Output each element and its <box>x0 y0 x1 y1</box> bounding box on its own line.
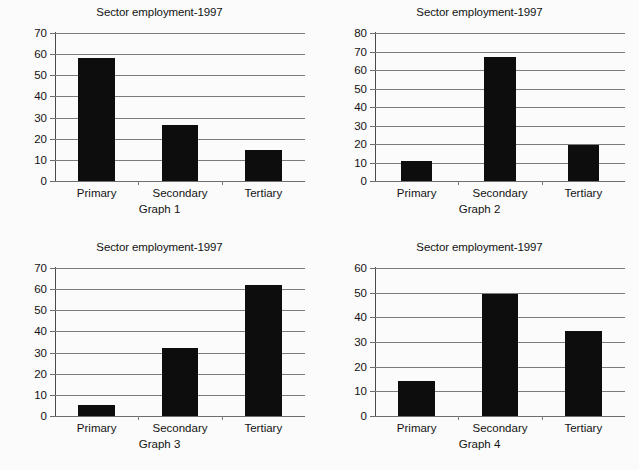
y-axis-tick <box>50 289 55 290</box>
chart-title: Sector employment-1997 <box>12 241 307 253</box>
bar <box>78 58 115 181</box>
x-axis-category-label: Tertiary <box>244 422 282 434</box>
y-axis-tick <box>370 163 375 164</box>
bar <box>245 150 282 181</box>
gridline <box>375 52 625 53</box>
y-axis-tick-label: 10 <box>34 389 47 401</box>
chart-title: Sector employment-1997 <box>320 6 639 18</box>
y-axis-tick-label: 10 <box>354 157 367 169</box>
y-axis-tick-label: 10 <box>34 154 47 166</box>
bar <box>568 145 600 181</box>
y-axis-tick-label: 30 <box>34 112 47 124</box>
bar <box>78 405 115 416</box>
gridline <box>55 33 305 34</box>
y-axis-tick-label: 50 <box>354 287 367 299</box>
bar <box>484 57 516 181</box>
x-axis-tick <box>138 181 139 185</box>
x-axis-baseline <box>370 181 625 182</box>
chart-panel-graph-1: Sector employment-1997 010203040506070Pr… <box>0 0 319 235</box>
x-axis-tick <box>542 181 543 185</box>
chart-caption: Graph 3 <box>12 438 307 450</box>
chart-caption: Graph 2 <box>320 203 639 215</box>
x-axis-category-label: Primary <box>77 422 117 434</box>
y-axis-tick <box>50 54 55 55</box>
y-axis-tick <box>50 96 55 97</box>
chart-caption: Graph 4 <box>320 438 639 450</box>
y-axis-tick-label: 70 <box>34 262 47 274</box>
y-axis-tick-label: 50 <box>34 69 47 81</box>
gridline <box>375 33 625 34</box>
y-axis-tick <box>370 391 375 392</box>
chart-panel-graph-4: Sector employment-1997 0102030405060Prim… <box>320 235 639 470</box>
plot-area: 010203040506070PrimarySecondaryTertiary <box>55 33 305 181</box>
chart-panel-graph-3: Sector employment-1997 010203040506070Pr… <box>0 235 319 470</box>
y-axis-tick-label: 60 <box>34 48 47 60</box>
x-axis-tick <box>222 416 223 420</box>
bar <box>162 348 199 416</box>
y-axis-tick <box>370 70 375 71</box>
x-axis-category-label: Tertiary <box>564 187 602 199</box>
y-axis-tick-label: 40 <box>354 311 367 323</box>
y-axis-tick <box>370 416 375 417</box>
y-axis-tick <box>370 181 375 182</box>
y-axis-tick-label: 0 <box>361 175 367 187</box>
bar <box>482 294 519 416</box>
y-axis-tick <box>370 342 375 343</box>
bar <box>401 161 433 181</box>
x-axis-tick <box>138 416 139 420</box>
gridline <box>375 268 625 269</box>
chart-caption: Graph 1 <box>12 203 307 215</box>
y-axis-tick <box>50 181 55 182</box>
x-axis-category-label: Secondary <box>153 422 208 434</box>
y-axis-tick <box>370 33 375 34</box>
x-axis-baseline <box>370 416 625 417</box>
x-axis-tick <box>458 416 459 420</box>
y-axis-tick <box>50 416 55 417</box>
y-axis-tick <box>50 33 55 34</box>
plot-area: 0102030405060PrimarySecondaryTertiary <box>375 268 625 416</box>
y-axis-tick-label: 0 <box>361 410 367 422</box>
y-axis-tick-label: 70 <box>354 46 367 58</box>
y-axis-tick-label: 20 <box>34 133 47 145</box>
bar <box>565 331 602 416</box>
plot-area: 01020304050607080PrimarySecondaryTertiar… <box>375 33 625 181</box>
y-axis-tick-label: 60 <box>354 64 367 76</box>
y-axis-tick-label: 20 <box>34 368 47 380</box>
chart-panel-graph-2: Sector employment-1997 01020304050607080… <box>320 0 639 235</box>
bar <box>162 125 199 181</box>
y-axis-tick-label: 20 <box>354 361 367 373</box>
y-axis-tick <box>370 126 375 127</box>
y-axis-tick-label: 60 <box>34 283 47 295</box>
y-axis-tick-label: 50 <box>34 304 47 316</box>
x-axis-category-label: Tertiary <box>564 422 602 434</box>
x-axis-tick <box>222 181 223 185</box>
x-axis-category-label: Primary <box>397 187 437 199</box>
y-axis-tick <box>370 89 375 90</box>
y-axis-tick <box>50 353 55 354</box>
y-axis-tick <box>370 317 375 318</box>
x-axis-category-label: Tertiary <box>244 187 282 199</box>
y-axis-tick <box>50 268 55 269</box>
y-axis-tick-label: 20 <box>354 138 367 150</box>
x-axis-category-label: Secondary <box>473 187 528 199</box>
y-axis-tick-label: 0 <box>41 175 47 187</box>
y-axis-tick <box>370 367 375 368</box>
x-axis-category-label: Secondary <box>473 422 528 434</box>
x-axis-baseline <box>50 416 305 417</box>
y-axis-tick-label: 30 <box>34 347 47 359</box>
chart-title: Sector employment-1997 <box>320 241 639 253</box>
y-axis-tick-label: 0 <box>41 410 47 422</box>
y-axis-tick <box>370 144 375 145</box>
y-axis-tick <box>50 310 55 311</box>
y-axis-tick-label: 60 <box>354 262 367 274</box>
y-axis-tick <box>50 139 55 140</box>
chart-title: Sector employment-1997 <box>12 6 307 18</box>
x-axis-category-label: Primary <box>77 187 117 199</box>
x-axis-tick <box>542 416 543 420</box>
y-axis-tick <box>370 52 375 53</box>
y-axis-tick-label: 40 <box>34 90 47 102</box>
y-axis-tick-label: 30 <box>354 336 367 348</box>
y-axis-tick-label: 50 <box>354 83 367 95</box>
plot-area: 010203040506070PrimarySecondaryTertiary <box>55 268 305 416</box>
y-axis-tick-label: 10 <box>354 385 367 397</box>
